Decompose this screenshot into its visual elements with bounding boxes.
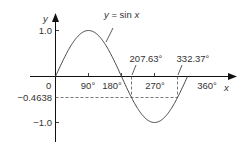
x-tick-label-180: 180° [102,80,122,91]
curve-label: y = sin x [103,9,140,20]
y-tick-label-neg1: −1.0 [33,117,52,128]
y-value-label: −0.4638 [17,92,52,103]
x-tick-label-270: 270° [145,80,165,91]
y-tick-label-1: 1.0 [39,25,52,36]
x-tick-label-360: 360° [197,80,217,91]
solution-label-1: 207.63° [130,53,163,64]
sol1-leader [132,65,136,75]
sol2-leader [178,65,182,75]
y-axis-label: y [42,13,49,24]
x-axis-label: x [223,82,230,93]
x-axis-arrow-icon [228,73,237,80]
y-axis-arrow-icon [52,13,59,22]
curve-label-rest: = sin [109,9,135,20]
solution-label-2: 332.37° [177,53,210,64]
curve-label-leader [106,28,113,42]
origin-label: 0 [46,80,51,91]
sine-chart: y x y = sin x 1.0 −1.0 −0.4638 0 90° 180… [0,0,239,151]
x-tick-label-90: 90° [81,80,96,91]
